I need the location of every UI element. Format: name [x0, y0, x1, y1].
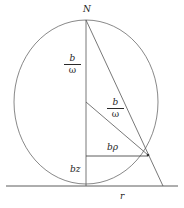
fraction-upper-denominator: ω	[64, 65, 81, 75]
label-apex-n: N	[83, 5, 91, 14]
label-b-z: bz	[70, 165, 81, 174]
fraction-upper-numerator: b	[64, 54, 81, 64]
figure-canvas	[0, 0, 184, 208]
label-b-rho: bρ	[107, 143, 118, 152]
circle-point-marker	[147, 154, 150, 157]
geometry-figure: N b ω b ω bρ bz r	[0, 0, 184, 208]
label-fraction-upper: b ω	[64, 54, 81, 75]
chord-from-apex-line	[86, 20, 163, 186]
label-baseline-r: r	[120, 192, 124, 201]
label-fraction-radius: b ω	[107, 98, 124, 119]
fraction-radius-denominator: ω	[107, 109, 124, 119]
fraction-radius-numerator: b	[107, 98, 124, 108]
